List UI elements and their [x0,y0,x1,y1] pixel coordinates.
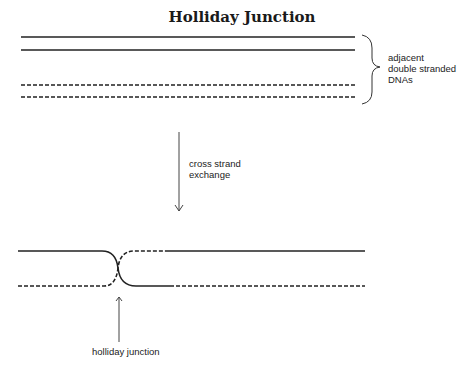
curly-brace-icon [362,35,380,104]
junction-label: holliday junction [92,346,160,357]
down-arrow-icon [175,132,183,211]
duplex-dashed [21,85,355,97]
brace-label: adjacent double stranded DNAs [388,52,456,85]
arrow-label: cross strand exchange [189,158,241,180]
duplex-solid [21,37,355,50]
brace-label-line2: double stranded [388,63,456,74]
junction-dashed-strand [18,251,365,286]
up-arrow-icon [116,297,122,342]
brace-label-line3: DNAs [388,74,456,85]
junction-solid-strand [18,251,365,286]
arrow-label-line2: exchange [189,169,241,180]
brace-label-line1: adjacent [388,52,456,63]
arrow-label-line1: cross strand [189,158,241,169]
